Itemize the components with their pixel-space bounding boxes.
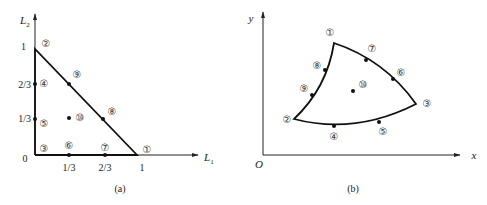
y-tick-1-3: 1/3 xyxy=(18,113,31,124)
node-5-dot xyxy=(33,117,37,121)
node-6-dot xyxy=(67,153,71,157)
node-10-dot xyxy=(67,116,71,120)
b-node-9-dot xyxy=(310,93,314,97)
node-3-label: ③ xyxy=(40,143,49,154)
l1-axis-label: L1 xyxy=(203,151,214,166)
x-tick-2-3: 2/3 xyxy=(99,162,112,173)
caption-b: (b) xyxy=(347,183,359,195)
origin-label: 0 xyxy=(23,153,28,164)
b-node-5-dot xyxy=(377,120,381,124)
b-node-5-label: ⑤ xyxy=(379,126,388,137)
node-1-label: ① xyxy=(143,144,152,155)
b-node-10-label: ⑩ xyxy=(359,79,368,90)
caption-a: (a) xyxy=(114,183,125,195)
x-axis-label: x xyxy=(471,149,477,161)
panel-a: L1 L2 0 1/3 2/3 1 1 2/3 1/3 ① ② ③ ④ ⑤ ⑥ … xyxy=(18,14,214,195)
b-node-4-dot xyxy=(332,124,336,128)
node-2-label: ② xyxy=(42,38,51,49)
y-tick-2-3: 2/3 xyxy=(18,79,31,90)
node-4-dot xyxy=(33,82,37,86)
curved-element xyxy=(294,43,416,124)
x-tick-1-3: 1/3 xyxy=(63,162,76,173)
panel-b: x y O ① ② ③ ④ ⑤ ⑥ ⑦ ⑧ ⑨ ⑩ (b) xyxy=(248,12,477,195)
l2-axis-label: L2 xyxy=(19,14,30,29)
origin-label-b: O xyxy=(255,158,263,170)
b-node-3-label: ③ xyxy=(423,98,432,109)
x-tick-1: 1 xyxy=(140,162,145,173)
b-node-6-dot xyxy=(391,77,395,81)
b-node-1-label: ① xyxy=(326,27,335,38)
y-axis-label: y xyxy=(248,12,254,24)
b-node-4-label: ④ xyxy=(330,131,339,142)
b-node-8-label: ⑧ xyxy=(313,60,322,71)
node-8-label: ⑧ xyxy=(108,106,117,117)
node-6-label: ⑥ xyxy=(65,140,74,151)
node-8-dot xyxy=(101,117,105,121)
b-node-7-dot xyxy=(364,58,368,62)
node-4-label: ④ xyxy=(40,78,49,89)
diagram-canvas: L1 L2 0 1/3 2/3 1 1 2/3 1/3 ① ② ③ ④ ⑤ ⑥ … xyxy=(0,0,487,205)
node-9-dot xyxy=(67,82,71,86)
node-7-label: ⑦ xyxy=(101,142,110,153)
node-10-label: ⑩ xyxy=(76,112,85,123)
node-9-label: ⑨ xyxy=(73,69,82,80)
node-7-dot xyxy=(103,153,107,157)
b-node-7-label: ⑦ xyxy=(368,43,377,54)
b-node-9-label: ⑨ xyxy=(300,83,309,94)
b-node-2-label: ② xyxy=(283,114,292,125)
b-node-6-label: ⑥ xyxy=(397,67,406,78)
node-5-label: ⑤ xyxy=(40,118,49,129)
triangle-element xyxy=(35,49,137,155)
y-tick-1: 1 xyxy=(21,41,26,52)
b-node-10-dot xyxy=(351,89,355,93)
b-node-8-dot xyxy=(323,68,327,72)
